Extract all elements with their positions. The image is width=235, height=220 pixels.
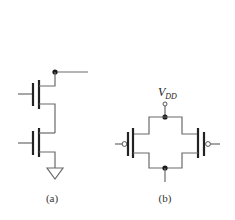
source-lead-lower: [39, 152, 55, 168]
panel-a: (a): [18, 69, 88, 205]
right-pmos-transistor: [198, 128, 220, 158]
left-pmos-transistor: [115, 128, 133, 158]
inversion-bubble-right: [206, 142, 211, 147]
ground-icon: [47, 168, 63, 179]
panel-label-b: (b): [159, 192, 172, 205]
circuit-diagram: (a) VDD (b): [0, 0, 235, 220]
inversion-bubble-left: [122, 142, 127, 147]
source-lead-upper: [39, 104, 55, 133]
drain-lead-upper: [39, 72, 55, 86]
upper-nmos-transistor: [18, 72, 55, 133]
panel-b: VDD (b): [115, 85, 220, 205]
vdd-label: VDD: [158, 85, 177, 101]
lower-nmos-transistor: [18, 128, 55, 168]
vdd-terminal-icon: [163, 102, 167, 106]
panel-label-a: (a): [46, 192, 59, 205]
